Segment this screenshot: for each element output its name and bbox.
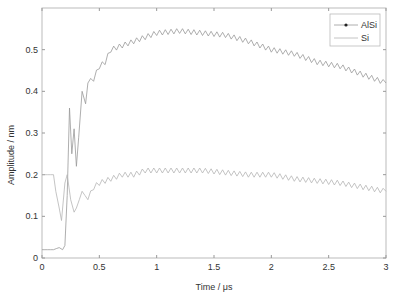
- x-tick-label: 0.5: [93, 262, 106, 272]
- line-chart: 00.511.522.5300.10.20.30.40.5 AlSiSi Tim…: [0, 0, 396, 294]
- x-axis-label: Time / μs: [196, 282, 233, 292]
- x-tick-label: 3: [383, 262, 388, 272]
- x-tick-label: 1.5: [208, 262, 221, 272]
- y-tick-label: 0.4: [25, 86, 38, 96]
- y-axis-label: Amplitude / nm: [6, 125, 16, 185]
- series-line-si: [42, 168, 386, 221]
- data-lines: [42, 29, 386, 250]
- legend: AlSiSi: [330, 14, 380, 46]
- y-tick-label: 0: [33, 253, 38, 263]
- x-tick-label: 0: [39, 262, 44, 272]
- legend-marker-icon: [344, 23, 347, 26]
- y-tick-label: 0.1: [25, 211, 38, 221]
- x-tick-label: 1: [154, 262, 159, 272]
- legend-label: Si: [361, 33, 369, 43]
- x-tick-label: 2.5: [322, 262, 335, 272]
- legend-label: AlSi: [361, 20, 377, 30]
- y-tick-label: 0.2: [25, 170, 38, 180]
- x-tick-label: 2: [269, 262, 274, 272]
- y-tick-label: 0.3: [25, 128, 38, 138]
- y-tick-label: 0.5: [25, 45, 38, 55]
- series-line-alsi: [42, 29, 386, 250]
- axes: 00.511.522.5300.10.20.30.40.5: [25, 8, 388, 272]
